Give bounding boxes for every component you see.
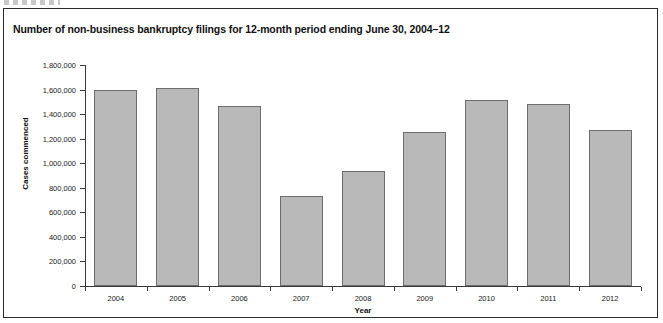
bar-2007	[280, 196, 323, 286]
y-axis-tick-label: 1,400,000	[20, 110, 76, 119]
y-axis-tick-label: 1,600,000	[20, 86, 76, 95]
x-axis-tick-label: 2004	[85, 294, 147, 303]
y-axis-tick-label: 800,000	[20, 184, 76, 193]
x-axis-tick-label: 2005	[147, 294, 209, 303]
x-axis-tick-mark	[641, 287, 642, 291]
y-axis-line	[85, 65, 86, 287]
y-axis-tick-label: 1,800,000	[20, 61, 76, 70]
bar-chart-plot-area: Cases commenced 0200,000400,000600,00080…	[4, 9, 659, 319]
x-axis-tick-mark	[394, 287, 395, 291]
x-axis-title: Year	[85, 306, 641, 315]
bar-2011	[527, 104, 570, 286]
x-axis-line	[85, 286, 641, 287]
bar-2005	[156, 88, 199, 286]
x-axis-tick-label: 2007	[270, 294, 332, 303]
x-axis-tick-label: 2012	[579, 294, 641, 303]
x-axis-tick-mark	[85, 287, 86, 291]
y-axis-tick-label: 400,000	[20, 233, 76, 242]
x-axis-tick-label: 2006	[209, 294, 271, 303]
x-axis-tick-mark	[147, 287, 148, 291]
y-axis-tick-mark	[80, 90, 85, 91]
bar-2004	[94, 90, 137, 286]
bar-2008	[342, 171, 385, 286]
x-axis-tick-mark	[332, 287, 333, 291]
scan-artifact	[4, 0, 60, 5]
y-axis-tick-label: 200,000	[20, 257, 76, 266]
y-axis-tick-label: 600,000	[20, 208, 76, 217]
y-axis-tick-mark	[80, 212, 85, 213]
x-axis-tick-mark	[579, 287, 580, 291]
y-axis-tick-mark	[80, 65, 85, 66]
y-axis-tick-mark	[80, 139, 85, 140]
bar-2009	[403, 132, 446, 286]
bar-2010	[465, 100, 508, 286]
y-axis-tick-mark	[80, 237, 85, 238]
y-axis-tick-mark	[80, 163, 85, 164]
x-axis-tick-label: 2009	[394, 294, 456, 303]
y-axis-tick-label: 1,200,000	[20, 135, 76, 144]
bar-2006	[218, 106, 261, 286]
x-axis-tick-label: 2010	[456, 294, 518, 303]
x-axis-tick-mark	[456, 287, 457, 291]
x-axis-tick-mark	[270, 287, 271, 291]
y-axis-tick-mark	[80, 114, 85, 115]
y-axis-tick-mark	[80, 188, 85, 189]
figure-frame: Number of non-business bankruptcy filing…	[3, 8, 658, 318]
x-axis-tick-label: 2011	[517, 294, 579, 303]
x-axis-tick-label: 2008	[332, 294, 394, 303]
x-axis-tick-mark	[517, 287, 518, 291]
y-axis-tick-label: 0	[20, 282, 76, 291]
x-axis-tick-mark	[209, 287, 210, 291]
bar-2012	[589, 130, 632, 286]
y-axis-tick-label: 1,000,000	[20, 159, 76, 168]
y-axis-tick-mark	[80, 261, 85, 262]
